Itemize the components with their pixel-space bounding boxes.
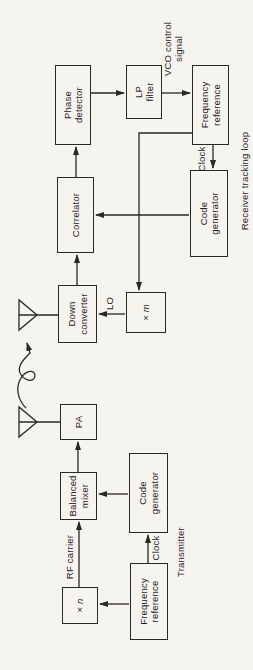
label-rf-carrier: RF carrier (65, 520, 76, 594)
label-transmitter-section: Transmitter (176, 500, 187, 604)
wireless-path-squiggle (18, 343, 35, 408)
block-power-amplifier: PA (60, 404, 97, 440)
label-tx-clock: Clock (151, 528, 162, 568)
block-diagram: Frequency reference × n Code generator B… (0, 0, 253, 670)
block-lp-filter: LP filter (126, 65, 162, 119)
block-correlator: Correlator (57, 177, 94, 253)
block-rx-frequency-reference: Frequency reference (192, 65, 229, 145)
edge-freqref-to-xm (139, 133, 192, 290)
block-phase-detector: Phase detector (55, 65, 91, 145)
block-balanced-mixer: Balanced mixer (60, 472, 97, 520)
block-rx-multiplier-xm: × m (126, 292, 166, 333)
block-rx-code-generator: Code generator (190, 170, 228, 257)
block-tx-code-generator: Code generator (129, 453, 168, 533)
label-lo: LO (105, 286, 116, 310)
label-vco-control-signal: VCO control signal (163, 11, 185, 87)
block-tx-frequency-reference: Frequency reference (130, 563, 168, 640)
label-receiver-tracking-loop-section: Receiver tracking loop (240, 102, 251, 260)
label-rx-clock: Clock (197, 139, 208, 179)
block-down-converter: Down converter (58, 285, 97, 343)
scanned-figure: Frequency reference × n Code generator B… (0, 0, 253, 670)
